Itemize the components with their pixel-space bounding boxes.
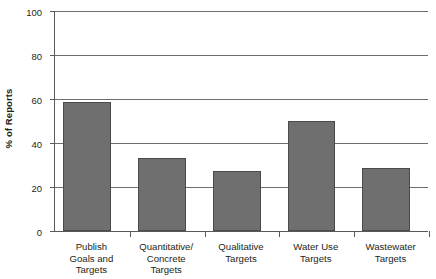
bar-slot-publish-goals-and-targets bbox=[55, 11, 130, 231]
x-axis-labels: Publish Goals and Targets Quantitative/ … bbox=[54, 241, 428, 279]
x-tick-4 bbox=[354, 231, 355, 237]
x-label-wastewater-targets: Wastewater Targets bbox=[353, 241, 428, 264]
plot-area: 100 80 60 40 20 0 bbox=[54, 11, 428, 231]
bar-wastewater-targets[interactable] bbox=[362, 168, 410, 231]
bar-water-use-targets[interactable] bbox=[288, 121, 336, 231]
y-tick-label-100: 100 bbox=[26, 7, 42, 18]
y-tick-label-80: 80 bbox=[31, 51, 42, 62]
x-label-quantitative-concrete-targets: Quantitative/ Concrete Targets bbox=[129, 241, 204, 276]
bar-slot-wastewater-targets bbox=[354, 11, 429, 231]
x-tick-2 bbox=[205, 231, 206, 237]
bar-chart-figure: % of Reports 100 80 60 40 20 0 bbox=[0, 0, 436, 279]
bar-slot-qualitative-targets bbox=[205, 11, 280, 231]
y-tick-label-0: 0 bbox=[37, 227, 42, 238]
bars-layer bbox=[55, 11, 428, 231]
bar-qualitative-targets[interactable] bbox=[213, 171, 261, 232]
y-axis-title-text: % of Reports bbox=[4, 88, 15, 148]
y-tick-label-60: 60 bbox=[31, 95, 42, 106]
y-axis-title: % of Reports bbox=[0, 0, 18, 236]
x-label-qualitative-targets: Qualitative Targets bbox=[204, 241, 279, 264]
x-tick-3 bbox=[279, 231, 280, 237]
bar-publish-goals-and-targets[interactable] bbox=[63, 102, 111, 231]
bar-slot-water-use-targets bbox=[279, 11, 354, 231]
y-tick-0: 0 bbox=[50, 231, 55, 232]
x-tick-5 bbox=[429, 231, 430, 237]
bar-slot-quantitative-concrete-targets bbox=[130, 11, 205, 231]
x-label-water-use-targets: Water Use Targets bbox=[278, 241, 353, 264]
x-axis-baseline bbox=[55, 231, 428, 232]
x-label-publish-goals-and-targets: Publish Goals and Targets bbox=[54, 241, 129, 276]
x-tick-1 bbox=[130, 231, 131, 237]
y-tick-label-40: 40 bbox=[31, 139, 42, 150]
bar-quantitative-concrete-targets[interactable] bbox=[138, 158, 186, 231]
y-tick-label-20: 20 bbox=[31, 183, 42, 194]
